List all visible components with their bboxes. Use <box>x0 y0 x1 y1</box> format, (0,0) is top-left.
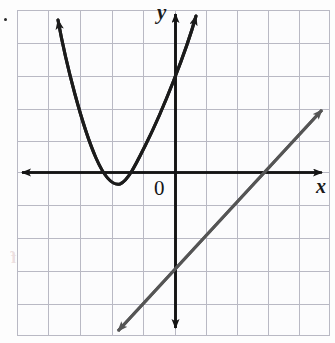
graph-figure: VV0sAAif sroitinifed <box>0 0 335 343</box>
x-axis-label: x <box>316 176 326 196</box>
origin-label: 0 <box>154 178 165 199</box>
y-axis-label: y <box>157 2 166 23</box>
coordinate-plane-svg <box>0 0 335 343</box>
